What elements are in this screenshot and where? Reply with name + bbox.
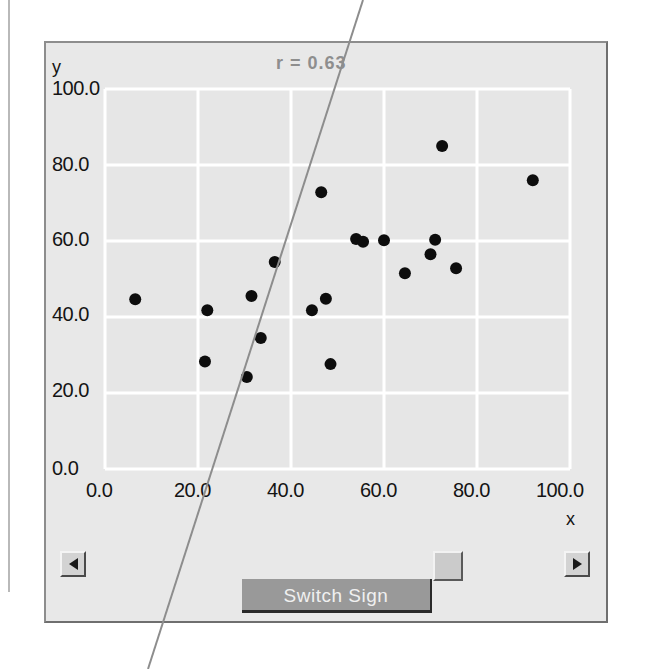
y-tick-40: 40.0 bbox=[52, 303, 89, 326]
x-tick-60: 60.0 bbox=[360, 479, 397, 502]
data-point bbox=[241, 371, 253, 383]
data-point bbox=[425, 248, 437, 260]
data-point bbox=[129, 293, 141, 305]
data-point bbox=[450, 262, 462, 274]
y-tick-80: 80.0 bbox=[52, 153, 89, 176]
scroll-left-button[interactable] bbox=[60, 551, 86, 577]
data-point bbox=[429, 234, 441, 246]
y-axis-label: y bbox=[52, 57, 61, 78]
chart-title: r = 0.63 bbox=[276, 53, 347, 74]
data-point bbox=[306, 304, 318, 316]
data-point bbox=[320, 293, 332, 305]
data-point bbox=[527, 174, 539, 186]
x-tick-80: 80.0 bbox=[453, 479, 490, 502]
x-tick-0: 0.0 bbox=[86, 479, 112, 502]
data-point bbox=[436, 140, 448, 152]
y-tick-60: 60.0 bbox=[52, 228, 89, 251]
data-point bbox=[245, 290, 257, 302]
y-tick-20: 20.0 bbox=[52, 379, 89, 402]
plot-canvas bbox=[46, 43, 606, 543]
x-axis-label: x bbox=[566, 509, 575, 530]
triangle-right-icon bbox=[573, 558, 582, 570]
switch-sign-button[interactable]: Switch Sign bbox=[242, 579, 432, 613]
data-point bbox=[325, 358, 337, 370]
data-point bbox=[399, 267, 411, 279]
data-point bbox=[255, 332, 267, 344]
data-point bbox=[199, 355, 211, 367]
data-point bbox=[269, 256, 281, 268]
y-tick-100: 100.0 bbox=[52, 77, 100, 100]
y-tick-0: 0.0 bbox=[52, 457, 78, 480]
data-point bbox=[201, 304, 213, 316]
applet-window: r = 0.63 y x 100.0 80.0 60.0 40.0 20.0 0… bbox=[44, 41, 608, 623]
x-tick-20: 20.0 bbox=[174, 479, 211, 502]
x-tick-40: 40.0 bbox=[267, 479, 304, 502]
scrollbar-thumb[interactable] bbox=[433, 551, 463, 581]
data-point bbox=[357, 236, 369, 248]
triangle-left-icon bbox=[69, 558, 78, 570]
x-tick-100: 100.0 bbox=[536, 479, 584, 502]
scroll-right-button[interactable] bbox=[564, 551, 590, 577]
scatter-chart: r = 0.63 y x 100.0 80.0 60.0 40.0 20.0 0… bbox=[46, 43, 606, 543]
plot-background bbox=[105, 89, 570, 469]
data-point bbox=[315, 186, 327, 198]
data-point bbox=[378, 234, 390, 246]
controls-strip: Switch Sign bbox=[46, 543, 606, 621]
page-edge-artifact bbox=[8, 0, 10, 592]
